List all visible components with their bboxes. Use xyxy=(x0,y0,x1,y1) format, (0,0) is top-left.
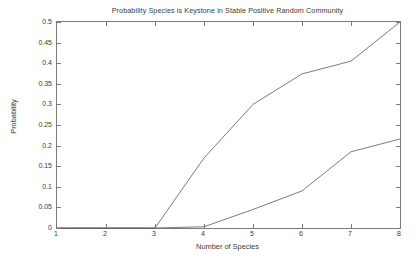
x-axis-label: Number of Species xyxy=(56,242,399,251)
x-tick-label: 2 xyxy=(95,230,115,237)
x-tick-label: 8 xyxy=(389,230,409,237)
chart-screenshot: Probability Species is Keystone in Stabl… xyxy=(0,0,420,261)
x-tick-label: 1 xyxy=(46,230,66,237)
x-tick-label: 7 xyxy=(340,230,360,237)
x-tick-label: 6 xyxy=(291,230,311,237)
x-axis-tick-labels: 12345678 xyxy=(0,0,420,261)
x-tick-label: 5 xyxy=(242,230,262,237)
x-tick-label: 4 xyxy=(193,230,213,237)
x-tick-label: 3 xyxy=(144,230,164,237)
